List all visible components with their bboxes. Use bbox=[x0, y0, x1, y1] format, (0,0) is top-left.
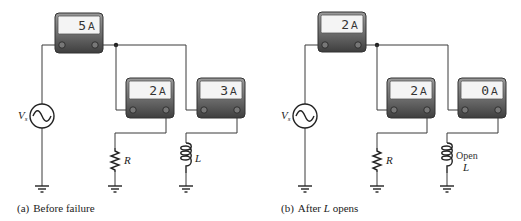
ammeter-resistor-branch: 2 A bbox=[387, 78, 435, 118]
resistor: R bbox=[373, 148, 393, 172]
ammeter-resistor-branch: 2 A bbox=[126, 78, 174, 118]
ac-source: Vs bbox=[18, 104, 54, 128]
ac-source: Vs bbox=[281, 104, 317, 128]
source-label: Vs bbox=[18, 109, 28, 123]
meter-unit: A bbox=[491, 86, 498, 97]
terminal-icon bbox=[424, 107, 430, 113]
meter-reading: 2 bbox=[410, 83, 418, 98]
terminal-icon bbox=[130, 107, 136, 113]
resistor: R bbox=[111, 148, 131, 172]
ground-icon bbox=[35, 186, 49, 192]
open-label: Open bbox=[456, 150, 478, 161]
meter-reading: 5 bbox=[78, 18, 86, 33]
terminal-icon bbox=[391, 107, 397, 113]
resistor-label: R bbox=[123, 154, 131, 166]
terminal-icon bbox=[92, 42, 98, 48]
terminal-icon bbox=[201, 107, 207, 113]
meter-reading: 2 bbox=[341, 17, 349, 32]
inductor-label: L bbox=[194, 152, 201, 164]
caption-a: (a)Before failure bbox=[17, 202, 95, 215]
resistor-label: R bbox=[385, 154, 393, 166]
caption-b: (b)After L opens bbox=[281, 202, 358, 215]
wire-source-to-meter bbox=[42, 45, 62, 104]
wire-source-to-meter bbox=[305, 45, 325, 104]
sine-icon bbox=[33, 111, 51, 122]
ammeter-inductor-branch: 3 A bbox=[197, 78, 245, 118]
ground-icon bbox=[179, 186, 193, 192]
meter-unit: A bbox=[230, 86, 237, 97]
ammeter-total: 2 A bbox=[318, 12, 366, 52]
ground-icon bbox=[370, 186, 384, 192]
ammeter-total: 5 A bbox=[55, 13, 103, 53]
ground-icon bbox=[440, 186, 454, 192]
terminal-icon bbox=[163, 107, 169, 113]
open-inductor: Open L bbox=[442, 143, 478, 173]
terminal-icon bbox=[355, 42, 361, 48]
meter-unit: A bbox=[159, 86, 166, 97]
meter-reading: 0 bbox=[481, 83, 489, 98]
meter-unit: A bbox=[88, 21, 95, 32]
circuit-figure: Vs R L 5 A bbox=[0, 0, 521, 221]
inductor: L bbox=[181, 143, 201, 173]
meter-reading: 2 bbox=[149, 83, 157, 98]
meter-unit: A bbox=[351, 20, 358, 31]
meter-reading: 3 bbox=[220, 83, 228, 98]
ground-icon bbox=[298, 186, 312, 192]
terminal-icon bbox=[322, 42, 328, 48]
source-label: Vs bbox=[281, 109, 291, 123]
ammeter-inductor-branch: 0 A bbox=[458, 78, 506, 118]
inductor-label: L bbox=[462, 161, 469, 173]
ground-icon bbox=[108, 186, 122, 192]
sine-icon bbox=[296, 111, 314, 122]
terminal-icon bbox=[462, 107, 468, 113]
terminal-icon bbox=[234, 107, 240, 113]
panel-b: Vs R Open L 2 A bbox=[281, 12, 506, 215]
terminal-icon bbox=[495, 107, 501, 113]
terminal-icon bbox=[59, 42, 65, 48]
panel-a: Vs R L 5 A bbox=[17, 13, 245, 215]
meter-unit: A bbox=[420, 86, 427, 97]
